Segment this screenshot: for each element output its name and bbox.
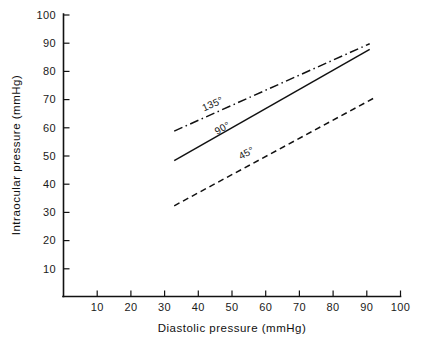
series-annotation-45: 45° <box>237 144 256 161</box>
series-annotation-135: 135° <box>200 94 224 113</box>
x-tick-label-40: 40 <box>192 301 205 313</box>
x-tick-label-70: 70 <box>293 301 306 313</box>
y-axis-tick-labels: 10 20 30 40 50 60 70 80 90 100 <box>36 9 56 275</box>
series-annotation-90: 90° <box>213 119 232 136</box>
series-line-135 <box>174 44 370 131</box>
y-tick-label-20: 20 <box>43 234 56 246</box>
y-tick-label-80: 80 <box>43 65 56 77</box>
y-tick-label-60: 60 <box>43 122 56 134</box>
series-line-45 <box>174 99 373 206</box>
y-tick-label-40: 40 <box>43 178 56 190</box>
x-axis-tick-labels: 10 20 30 40 50 60 70 80 90 100 <box>91 301 411 313</box>
y-tick-label-70: 70 <box>43 93 56 105</box>
y-tick-label-100: 100 <box>36 9 56 21</box>
y-tick-label-90: 90 <box>43 37 56 49</box>
y-tick-label-50: 50 <box>43 150 56 162</box>
x-tick-label-100: 100 <box>391 301 411 313</box>
x-tick-label-30: 30 <box>158 301 171 313</box>
x-tick-label-60: 60 <box>259 301 272 313</box>
line-chart: 10 20 30 40 50 60 70 80 90 100 10 20 30 … <box>0 0 421 340</box>
y-tick-label-10: 10 <box>43 263 56 275</box>
y-axis-ticks <box>64 15 70 269</box>
x-tick-label-50: 50 <box>225 301 238 313</box>
x-axis-title: Diastolic pressure (mmHg) <box>158 322 307 334</box>
y-tick-label-30: 30 <box>43 206 56 218</box>
x-axis-ticks <box>97 291 400 297</box>
chart-page: 10 20 30 40 50 60 70 80 90 100 10 20 30 … <box>0 0 421 340</box>
x-tick-label-10: 10 <box>91 301 104 313</box>
y-axis-title: Intraocular pressure (mmHg) <box>10 75 22 235</box>
x-tick-label-90: 90 <box>360 301 373 313</box>
x-tick-label-20: 20 <box>124 301 137 313</box>
x-tick-label-80: 80 <box>327 301 340 313</box>
